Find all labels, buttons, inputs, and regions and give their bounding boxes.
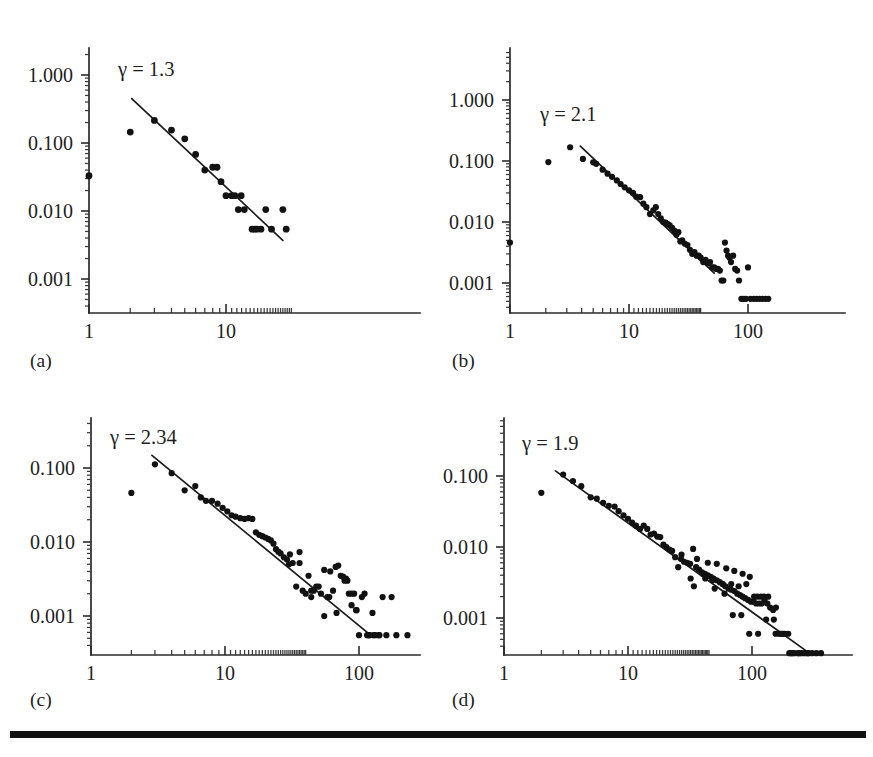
data-point [152,461,158,467]
data-point [214,501,220,507]
figure-background [0,0,873,757]
y-tick-label: 0.010 [30,531,75,553]
gamma-annotation: γ = 1.9 [521,432,579,455]
data-point [746,631,752,637]
data-point [796,650,802,656]
data-point [765,594,771,600]
data-point [218,178,225,185]
data-point [771,616,777,622]
data-point [201,167,208,174]
data-point [678,552,684,558]
data-point [720,277,726,283]
data-point [268,226,275,233]
data-point [330,588,336,594]
data-point [606,503,612,509]
data-point [286,561,292,567]
data-point [348,602,354,608]
data-point [738,612,744,618]
panel-label: (d) [452,689,475,711]
data-point [231,192,238,199]
data-point [818,650,824,656]
y-tick-label: 0.010 [28,200,73,222]
data-point [740,571,746,577]
data-point [777,631,783,637]
data-point [804,650,810,656]
data-point [393,632,399,638]
x-tick-label: 10 [215,662,235,684]
data-point [318,591,324,597]
data-point [238,192,245,199]
data-point [538,490,544,496]
data-point [786,650,792,656]
data-point [214,164,221,171]
data-point [688,575,694,581]
data-point [380,594,386,600]
data-point [653,204,659,210]
data-point [721,591,727,597]
data-point [593,161,599,167]
data-point [270,541,276,547]
data-point [168,127,175,134]
data-point [637,194,643,200]
data-point [192,483,198,489]
data-point [600,167,606,173]
four-panel-powerlaw-figure: 1.0000.1000.0100.001110γ = 1.3(a)1.0000.… [0,0,873,757]
panel-label: (a) [30,350,52,372]
data-point [388,594,394,600]
data-point [743,581,749,587]
data-point [751,594,757,600]
x-tick-label: 100 [737,662,767,684]
data-point [326,594,332,600]
data-point [765,296,771,302]
y-tick-label: 0.100 [443,465,488,487]
data-point [293,583,299,589]
data-point [356,632,362,638]
data-point [303,591,309,597]
data-point [321,613,327,619]
x-tick-label: 10 [618,662,638,684]
data-point [383,632,389,638]
data-point [736,277,742,283]
data-point [730,612,736,618]
data-point [705,560,711,566]
data-point [283,226,290,233]
data-point [745,264,751,270]
data-point [235,206,242,213]
data-point [731,568,737,574]
data-point [169,470,175,476]
data-point [722,239,728,245]
data-point [755,631,761,637]
data-point [675,229,681,235]
data-point [690,546,696,552]
x-tick-label: 1 [505,320,515,342]
data-point [192,151,199,158]
data-point [279,206,286,213]
data-point [707,259,713,265]
data-point [321,567,327,573]
data-point [361,591,367,597]
data-point [717,267,723,273]
data-point [669,548,675,554]
gamma-annotation: γ = 2.1 [539,103,597,126]
x-tick-label: 10 [619,320,639,342]
data-point [758,594,764,600]
gamma-annotation: γ = 2.34 [109,426,177,449]
data-point [594,496,600,502]
data-point [657,534,663,540]
y-tick-label: 0.010 [443,536,488,558]
data-point [296,560,302,566]
y-tick-label: 1.000 [28,64,73,86]
data-point [588,494,594,500]
data-point [578,483,584,489]
data-point [296,549,302,555]
data-point [580,156,586,162]
data-point [203,498,209,504]
data-point [687,561,693,567]
data-point [333,610,339,616]
panel-label: (c) [30,689,52,711]
data-point [723,565,729,571]
y-tick-label: 0.010 [449,211,494,233]
x-tick-label: 1 [86,662,96,684]
data-point [404,632,410,638]
data-point [714,561,720,567]
